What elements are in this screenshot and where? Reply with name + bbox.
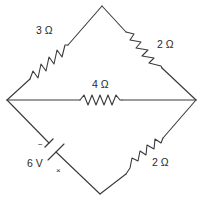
wire-left-to-battery xyxy=(7,100,49,143)
label-r-upper-right: 2 Ω xyxy=(157,38,174,50)
wire-left-to-r1 xyxy=(7,79,30,100)
label-battery-voltage: 6 V xyxy=(27,157,43,169)
resistor-lower-right xyxy=(100,100,196,194)
resistor-zigzag-4-ohm xyxy=(80,95,122,105)
battery-lower-left xyxy=(7,100,100,194)
resistor-upper-right xyxy=(102,6,196,100)
resistor-upper-left xyxy=(7,6,102,100)
wire-r4-to-bottom xyxy=(100,174,126,194)
resistor-middle xyxy=(7,95,196,105)
wire-battery-to-bottom xyxy=(56,152,100,194)
label-battery-plus: × xyxy=(56,166,61,175)
wire-right-to-r4 xyxy=(163,100,196,138)
wire-r1-to-top xyxy=(68,6,102,45)
label-r-middle: 4 Ω xyxy=(92,78,109,90)
wire-r2-to-right xyxy=(162,68,196,100)
label-battery-minus: − xyxy=(38,140,43,149)
label-r-lower-right: 2 Ω xyxy=(152,156,169,168)
resistor-zigzag-3-ohm xyxy=(30,45,68,79)
circuit-diagram: 3 Ω 2 Ω 4 Ω 2 Ω 6 V − × xyxy=(0,0,204,200)
wire-top-to-r2 xyxy=(102,6,126,32)
label-r-upper-left: 3 Ω xyxy=(36,24,53,36)
